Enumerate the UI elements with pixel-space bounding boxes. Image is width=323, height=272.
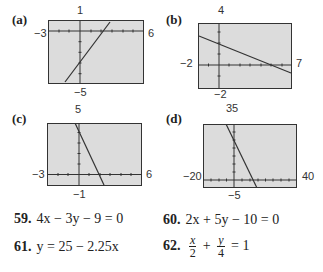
exercise-number: 59. — [14, 211, 32, 226]
exercise-60: 60.2x + 5y − 10 = 0 — [163, 212, 279, 228]
graph-c-ymax: 5 — [75, 103, 81, 115]
graph-d-xmax: 40 — [302, 170, 314, 182]
graph-d-ymax: 35 — [226, 102, 238, 114]
graph-c-label: (c) — [12, 111, 26, 127]
graph-d-xmin: −20 — [183, 170, 202, 182]
graph-d-label: (d) — [166, 111, 182, 127]
plus-sign: + — [203, 238, 211, 253]
graph-a-xmax: 6 — [148, 27, 154, 39]
graph-b-ymin: −2 — [214, 88, 227, 100]
graph-c-ymin: −1 — [73, 188, 86, 200]
equation: 4x − 3y − 9 = 0 — [37, 211, 124, 226]
fraction-y-over-4: y4 — [217, 234, 224, 259]
graph-d — [203, 124, 297, 188]
exercise-59: 59.4x − 3y − 9 = 0 — [14, 211, 123, 227]
graph-b-xmax: 7 — [296, 57, 302, 69]
equation: 2x + 5y − 10 = 0 — [186, 212, 280, 227]
equation: y = 25 − 2.25x — [37, 239, 119, 254]
graph-b-label: (b) — [166, 12, 182, 28]
graph-c — [47, 123, 142, 186]
graph-c-xmin: −3 — [32, 168, 45, 180]
exercise-number: 61. — [14, 239, 32, 254]
graph-b-xmin: −2 — [180, 57, 193, 69]
graph-d-ymin: −5 — [228, 189, 241, 201]
graph-b-ymax: 4 — [218, 4, 224, 16]
exercise-number: 60. — [163, 212, 181, 227]
graph-b — [198, 23, 292, 89]
exercise-62: 62. x2 + y4 = 1 — [163, 234, 249, 259]
graph-a — [48, 20, 144, 84]
graph-c-xmax: 6 — [146, 168, 152, 180]
graph-a-xmin: −3 — [34, 27, 47, 39]
graph-a-ymax: 1 — [77, 4, 83, 16]
equation-rhs: = 1 — [231, 238, 249, 253]
graph-a-ymin: −5 — [74, 86, 87, 98]
exercise-number: 62. — [163, 238, 181, 253]
exercise-61: 61.y = 25 − 2.25x — [14, 239, 119, 255]
graph-a-label: (a) — [12, 12, 27, 28]
fraction-x-over-2: x2 — [189, 234, 196, 259]
